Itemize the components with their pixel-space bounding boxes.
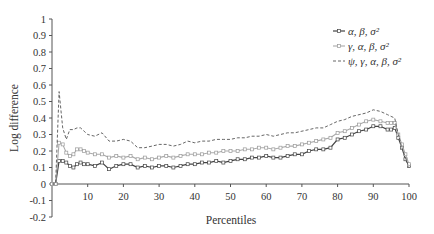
x-tick-label: 80 bbox=[332, 191, 343, 202]
y-tick-label: 0.8 bbox=[33, 47, 46, 58]
x-tick-label: 90 bbox=[368, 191, 379, 202]
x-tick-label: 40 bbox=[190, 191, 201, 202]
legend-item: γ, α, β, σ² bbox=[333, 40, 390, 52]
x-axis: 102030405060708090100 bbox=[52, 184, 417, 202]
x-tick-label: 70 bbox=[297, 191, 308, 202]
y-tick-label: 0.6 bbox=[33, 80, 46, 91]
plot-series bbox=[51, 92, 411, 186]
x-axis-label: Percentiles bbox=[206, 214, 257, 226]
x-tick-label: 50 bbox=[225, 191, 236, 202]
x-tick-label: 60 bbox=[261, 191, 272, 202]
x-tick-label: 30 bbox=[154, 191, 165, 202]
series-3 bbox=[52, 92, 409, 184]
series-2 bbox=[51, 118, 411, 185]
y-tick-label: 0.1 bbox=[33, 162, 46, 173]
y-tick-label: 1 bbox=[41, 14, 46, 25]
y-tick-label: 0.7 bbox=[33, 63, 46, 74]
y-axis-label: Log difference bbox=[8, 84, 21, 152]
y-tick-label: 0.3 bbox=[33, 129, 46, 140]
y-tick-label: 0.5 bbox=[33, 96, 46, 107]
y-axis: 10.90.80.70.60.50.40.30.20.10-0.1-0.2 bbox=[29, 14, 52, 223]
legend-item: ψ, γ, α, β, σ² bbox=[333, 55, 402, 67]
x-tick-label: 20 bbox=[118, 191, 129, 202]
legend-label: γ, α, β, σ² bbox=[348, 40, 390, 52]
y-tick-label: -0.2 bbox=[29, 212, 46, 223]
y-tick-label: 0.4 bbox=[33, 113, 47, 124]
y-tick-label: -0.1 bbox=[29, 195, 46, 206]
y-tick-label: 0.2 bbox=[33, 146, 46, 157]
legend-item: α, β, σ² bbox=[333, 25, 380, 37]
legend-label: α, β, σ² bbox=[348, 25, 380, 37]
x-tick-label: 100 bbox=[401, 191, 417, 202]
line-chart: 10.90.80.70.60.50.40.30.20.10-0.1-0.2 10… bbox=[0, 0, 434, 234]
legend-label: ψ, γ, α, β, σ² bbox=[348, 55, 402, 67]
y-tick-label: 0 bbox=[41, 179, 46, 190]
legend: α, β, σ²γ, α, β, σ²ψ, γ, α, β, σ² bbox=[333, 25, 402, 67]
y-tick-label: 0.9 bbox=[33, 30, 46, 41]
x-tick-label: 10 bbox=[82, 191, 93, 202]
